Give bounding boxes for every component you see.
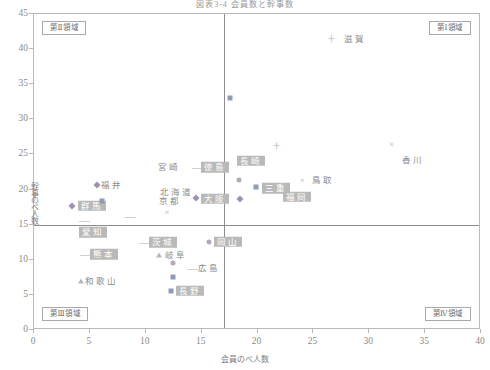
data-point-marker — [236, 196, 243, 203]
data-point-label: 和歌山 — [85, 277, 118, 286]
data-point-marker — [236, 178, 241, 183]
scatter-chart: 図表3-4 会員数と幹事数 第Ⅰ領域第Ⅱ領域第Ⅲ領域第Ⅳ領域＋滋賀×香川＋長崎—… — [0, 0, 490, 370]
data-point-marker — [68, 202, 75, 209]
y-axis-tick-label: 30 — [4, 113, 28, 123]
y-axis-tick-label: 45 — [4, 8, 28, 18]
y-axis-tick — [29, 294, 33, 295]
data-point-label: 香川 — [402, 156, 424, 165]
x-axis-tick — [368, 329, 369, 333]
y-axis-tick-label: 5 — [4, 289, 28, 299]
x-axis-tick — [424, 329, 425, 333]
data-point-label: 長崎 — [237, 156, 265, 167]
data-point-label: 鳥取 — [312, 175, 334, 184]
y-axis-tick — [29, 259, 33, 260]
data-point-label: 広島 — [198, 263, 220, 272]
data-point-label: 茨城 — [149, 237, 177, 248]
y-axis-tick-label: 15 — [4, 219, 28, 229]
x-axis-tick-label: 25 — [308, 336, 318, 346]
x-axis-tick-label: 30 — [364, 336, 374, 346]
x-axis-tick — [480, 329, 481, 333]
y-axis-tick-label: 25 — [4, 148, 28, 158]
data-point-label: 長野 — [176, 285, 204, 296]
y-axis-tick-label: 10 — [4, 254, 28, 264]
y-axis-tick-label: 40 — [4, 43, 28, 53]
data-point-label: 熊本 — [90, 249, 118, 260]
data-point-marker — [169, 288, 174, 293]
x-axis-tick-label: 10 — [140, 336, 150, 346]
y-axis-tick — [29, 13, 33, 14]
data-point-marker — [254, 184, 259, 189]
horizontal-divider-line — [34, 225, 479, 226]
data-point-marker: ＋ — [327, 34, 336, 43]
x-axis-tick-label: 40 — [475, 336, 485, 346]
x-axis-tick-label: 15 — [196, 336, 206, 346]
data-point-marker: — — [79, 216, 90, 225]
data-point-marker — [100, 198, 105, 203]
y-axis-tick-label: 35 — [4, 78, 28, 88]
data-point-marker: × — [300, 176, 305, 185]
data-point-marker — [156, 252, 162, 257]
data-point-label: 福井 — [101, 181, 123, 190]
quadrant-label-q3: 第Ⅲ領域 — [42, 307, 88, 321]
quadrant-label-q4: 第Ⅳ領域 — [425, 307, 472, 321]
data-point-label: 京都 — [159, 197, 181, 206]
x-axis-tick-label: 0 — [31, 336, 36, 346]
quadrant-label-q2: 第Ⅱ領域 — [42, 21, 86, 35]
data-point-marker: ＋ — [272, 142, 281, 151]
data-point-marker: — — [125, 211, 136, 220]
data-point-marker: × — [164, 208, 169, 217]
y-axis-tick-label: 20 — [4, 184, 28, 194]
x-axis-tick-label: 5 — [87, 336, 92, 346]
x-axis-tick — [33, 329, 34, 333]
data-point-marker — [207, 239, 212, 244]
y-axis-tick-label: 0 — [4, 324, 28, 334]
data-point-marker — [227, 96, 232, 101]
data-point-label: 愛知 — [79, 227, 107, 238]
data-point-marker — [170, 274, 175, 279]
data-point-marker — [78, 278, 84, 283]
x-axis-tick — [201, 329, 202, 333]
data-point-marker: — — [187, 263, 198, 272]
x-axis-tick-label: 35 — [419, 336, 429, 346]
x-axis-title: 会員のべ人数 — [0, 353, 490, 364]
data-point-label: 岡山 — [214, 236, 242, 247]
data-point-marker — [93, 182, 100, 189]
x-axis-tick — [89, 329, 90, 333]
x-axis-tick — [257, 329, 258, 333]
y-axis-tick — [29, 153, 33, 154]
y-axis-tick — [29, 189, 33, 190]
data-point-marker — [170, 260, 175, 265]
data-point-label: 岐阜 — [165, 251, 187, 260]
x-axis-tick — [145, 329, 146, 333]
data-point-label: 徳島 — [201, 162, 229, 173]
quadrant-label-q1: 第Ⅰ領域 — [429, 21, 471, 35]
y-axis-tick — [29, 48, 33, 49]
data-point-marker: × — [389, 139, 394, 148]
y-axis-tick — [29, 83, 33, 84]
chart-title: 図表3-4 会員数と幹事数 — [0, 0, 490, 9]
data-point-label: 滋賀 — [344, 34, 366, 43]
x-axis-tick — [312, 329, 313, 333]
data-point-label: 大阪 — [201, 193, 229, 204]
data-point-label: 宮崎 — [158, 163, 180, 172]
y-axis-tick — [29, 118, 33, 119]
plot-area: 第Ⅰ領域第Ⅱ領域第Ⅲ領域第Ⅳ領域＋滋賀×香川＋長崎—徳島宮崎×鳥取三重福岡福井北… — [33, 13, 480, 329]
y-axis-tick — [29, 224, 33, 225]
data-point-label: 福岡 — [283, 191, 311, 202]
y-axis-tick — [29, 329, 33, 330]
x-axis-tick-label: 20 — [252, 336, 262, 346]
data-point-marker — [192, 194, 199, 201]
